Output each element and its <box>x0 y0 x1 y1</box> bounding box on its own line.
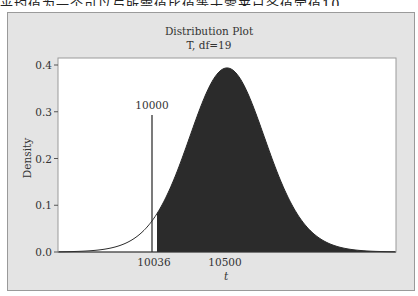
reference-line-label: 10000 <box>135 99 168 111</box>
x-tick-label: 10500 <box>208 256 241 268</box>
x-axis-label: t <box>224 270 229 282</box>
y-tick-label: 0.2 <box>35 153 52 165</box>
distribution-plot: 10000 0.00.10.20.30.4 10036 10500 t Dens… <box>0 0 418 296</box>
y-tick-label: 0.0 <box>35 246 52 258</box>
y-axis-label: Density <box>21 138 33 178</box>
y-tick-label: 0.4 <box>35 59 52 71</box>
y-tick-label: 0.1 <box>35 199 52 211</box>
y-axis: 0.00.10.20.30.4 <box>35 59 58 258</box>
y-tick-label: 0.3 <box>35 106 52 118</box>
x-tick-label: 10036 <box>137 256 171 268</box>
